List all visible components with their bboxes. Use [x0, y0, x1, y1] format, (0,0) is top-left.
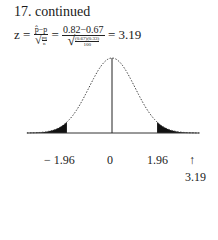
label-center: 0: [107, 153, 113, 168]
label-right-critical: 1.96: [147, 153, 168, 168]
label-left-critical: − 1.96: [44, 153, 75, 168]
label-test-statistic: 3.19: [185, 170, 206, 185]
left-shaded-tail: [27, 122, 67, 133]
arrow-up-icon: ↑: [189, 153, 195, 168]
bell-curve: [27, 58, 200, 133]
